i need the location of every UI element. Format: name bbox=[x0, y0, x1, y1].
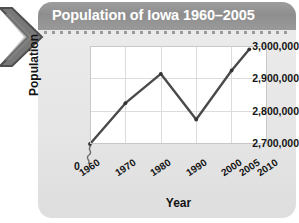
data-line-series bbox=[90, 46, 267, 144]
chart-title: Population of Iowa 1960–2005 bbox=[52, 5, 288, 25]
plot-area bbox=[90, 46, 267, 144]
y-tick-label: 2,700,000 bbox=[229, 137, 299, 149]
left-chevron-ribbon-icon bbox=[0, 6, 50, 68]
title-dotted-divider bbox=[44, 31, 292, 34]
y-axis-label: Population bbox=[27, 27, 41, 103]
chart-figure: Population of Iowa 1960–2005 Population … bbox=[0, 0, 299, 223]
y-tick-label: 2,900,000 bbox=[229, 72, 299, 84]
y-tick-label: 3,000,000 bbox=[229, 40, 299, 52]
y-tick-label: 2,800,000 bbox=[229, 105, 299, 117]
x-axis-label: Year bbox=[90, 196, 267, 210]
